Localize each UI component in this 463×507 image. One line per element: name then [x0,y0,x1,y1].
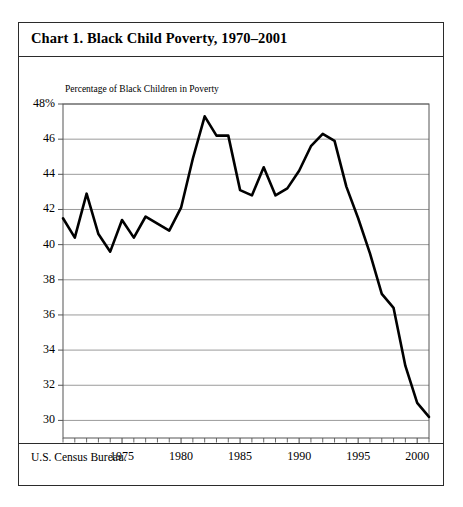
x-axis-tick-label: 1995 [337,449,379,464]
y-axis-tick-label: 38 [15,272,55,287]
y-axis-tick-label: 34 [15,342,55,357]
y-axis-tick-label: 42 [15,201,55,216]
x-axis-tick-label: 1985 [219,449,261,464]
y-axis-tick-label: 32 [15,377,55,392]
y-axis-tick-label: 48% [15,96,55,111]
data-series-line [63,116,429,417]
y-axis-tick-label: 36 [15,307,55,322]
source-note: U.S. Census Bureau. [31,451,127,463]
x-axis-tick-label: 2000 [396,449,438,464]
plot-area: Percentage of Black Children in Poverty … [19,56,443,443]
x-axis-tick-label: 1990 [278,449,320,464]
line-chart-svg [19,56,443,443]
x-axis-tick-label: 1980 [160,449,202,464]
page-title: Chart 1. Black Child Poverty, 1970–2001 [31,30,287,47]
chart-figure-frame: Chart 1. Black Child Poverty, 1970–2001 … [18,22,444,486]
source-divider [19,443,443,444]
y-axis-tick-label: 40 [15,237,55,252]
y-axis-tick-label: 44 [15,166,55,181]
y-axis-tick-label: 46 [15,131,55,146]
y-axis-tick-label: 30 [15,412,55,427]
